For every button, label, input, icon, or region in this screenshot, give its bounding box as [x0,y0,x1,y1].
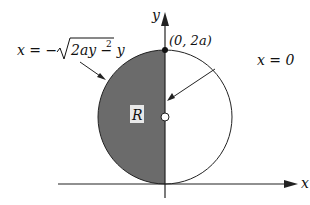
left-pointer-arrow-icon [97,73,106,80]
line-label-right: x = 0 [257,52,295,68]
center-point [161,113,169,121]
point-label: (0, 2a) [169,33,212,48]
y-axis-arrow-icon [161,12,169,26]
y-axis-label: y [151,7,161,23]
right-line-pointer [170,69,215,99]
curve-label-exponent: 2 [106,39,112,49]
diagram-canvas: y x R (0, 2a) x = 0 x = − 2ay − y 2 [0,0,310,205]
x-axis-arrow-icon [284,180,298,188]
x-axis-label: x [301,175,309,191]
right-pointer-arrow-icon [167,93,175,101]
curve-label-radicand: 2ay − y [70,42,126,58]
curve-label-lhs: x = − [17,42,57,58]
region-label: R [131,107,143,123]
top-point [162,47,168,53]
